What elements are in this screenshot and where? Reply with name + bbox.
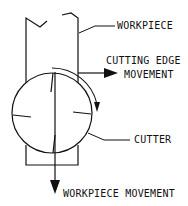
cutting-edge-label-line1: CUTTING EDGE bbox=[106, 55, 181, 66]
workpiece-movement-label: WORKPIECE MOVEMENT bbox=[63, 188, 175, 199]
workpiece-label: WORKPIECE bbox=[117, 20, 173, 31]
workpiece-leader bbox=[79, 26, 115, 33]
arrow-right-icon bbox=[104, 68, 118, 78]
cutting-edge-label-line2: MOVEMENT bbox=[124, 69, 174, 80]
cutter-label: CUTTER bbox=[134, 134, 172, 145]
cutting-edge-arrow bbox=[78, 68, 118, 78]
arrow-clockwise-icon bbox=[94, 102, 100, 112]
arrow-down-icon bbox=[50, 180, 60, 194]
cutter-leader bbox=[88, 133, 130, 140]
milling-diagram: WORKPIECE CUTTING EDGE MOVEMENT CUTTER W… bbox=[0, 0, 188, 206]
